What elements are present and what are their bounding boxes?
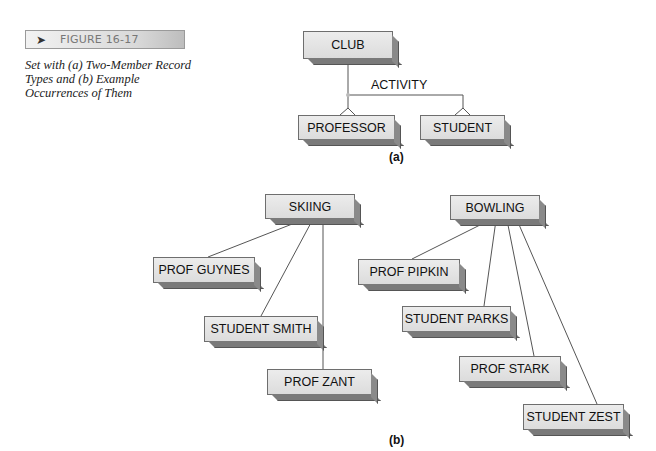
record-club: CLUB	[303, 31, 393, 59]
record-professor: PROFESSOR	[298, 115, 395, 140]
occurrence-bowling: BOWLING	[450, 195, 540, 220]
member-student-parks: STUDENT PARKS	[402, 306, 511, 332]
member-prof-pipkin: PROF PIPKIN	[358, 259, 460, 285]
member-student-smith: STUDENT SMITH	[204, 316, 318, 342]
occurrence-skiing: SKIING	[265, 194, 355, 219]
record-student: STUDENT	[420, 115, 505, 140]
set-name-activity: ACTIVITY	[371, 78, 427, 92]
member-student-zest: STUDENT ZEST	[523, 404, 624, 430]
member-prof-stark: PROF STARK	[459, 356, 561, 382]
sublabel-b: (b)	[389, 433, 404, 447]
sublabel-a: (a)	[389, 150, 404, 164]
member-prof-zant: PROF ZANT	[267, 369, 372, 395]
member-prof-guynes: PROF GUYNES	[153, 257, 255, 283]
